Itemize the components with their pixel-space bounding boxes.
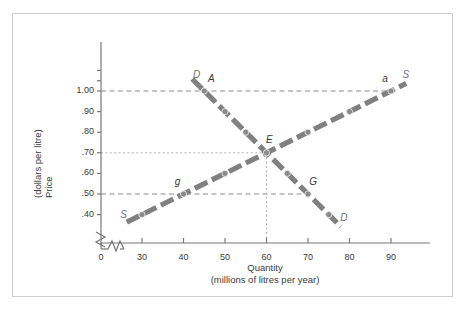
data-point-demand-4 — [284, 170, 290, 176]
point-label-g: g — [175, 176, 181, 187]
curve-end-label-S: S — [403, 69, 410, 80]
data-point-supply-5 — [346, 109, 352, 115]
data-point-supply-2 — [222, 170, 228, 176]
y-axis-tick-label: 1.00 — [60, 85, 94, 95]
x-axis-tick-label: 30 — [127, 252, 157, 262]
y-axis-tick-label: .90 — [60, 106, 94, 116]
y-axis-tick-label: .40 — [60, 209, 94, 219]
curve-end-label-D: D — [193, 69, 200, 80]
y-axis-tick-label: .70 — [60, 147, 94, 157]
x-axis-title-line2: (millions of litres per year) — [100, 274, 430, 286]
y-axis-tick-label: .60 — [60, 167, 94, 177]
curve-end-label-D: D — [340, 212, 347, 223]
y-axis-tick-label: .50 — [60, 188, 94, 198]
data-point-supply-0 — [139, 212, 145, 218]
point-label-G: G — [309, 176, 317, 187]
x-axis-tick-label: 40 — [169, 252, 199, 262]
figure-container: Price (dollars per litre) Quantity (mill… — [0, 0, 466, 313]
data-point-demand-1 — [222, 109, 228, 115]
curve-end-label-S: S — [120, 209, 127, 220]
data-point-supply-1 — [180, 191, 186, 197]
point-label-A: A — [208, 73, 215, 84]
x-axis-tick-label: 50 — [210, 252, 240, 262]
data-point-demand-0 — [201, 88, 207, 94]
point-label-a: a — [382, 73, 388, 84]
data-point-supply-6 — [388, 88, 394, 94]
data-point-demand-2 — [243, 129, 249, 135]
data-point-demand-6 — [326, 212, 332, 218]
x-axis-tick-label: 80 — [335, 252, 365, 262]
data-point-demand-5 — [305, 191, 311, 197]
x-axis-tick-label: 0 — [86, 252, 116, 262]
x-axis-tick-label: 60 — [252, 252, 282, 262]
x-axis-title: Quantity (millions of litres per year) — [100, 262, 430, 286]
point-label-E: E — [266, 134, 273, 145]
x-axis-tick-label: 90 — [376, 252, 406, 262]
data-point-supply-4 — [305, 129, 311, 135]
y-axis-tick-label: .80 — [60, 126, 94, 136]
x-axis-tick-label: 70 — [293, 252, 323, 262]
y-axis-title-line1: Price — [43, 176, 54, 198]
x-axis-title-line1: Quantity — [100, 262, 430, 274]
y-axis-title-line2: (dollars per litre) — [32, 129, 43, 198]
data-point-supply-3 — [263, 150, 269, 156]
